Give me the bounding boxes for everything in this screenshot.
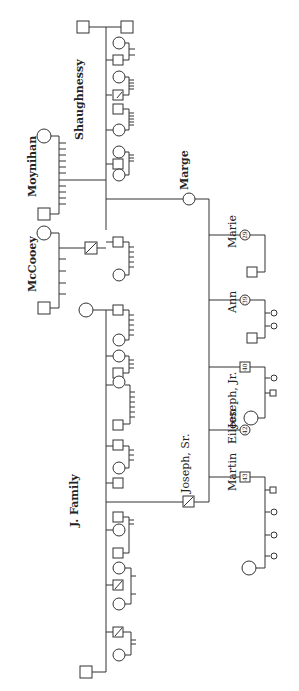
- marie-label: Marie: [226, 215, 239, 248]
- moynihan-label: Moynihan: [26, 136, 39, 197]
- children-generation: [209, 230, 277, 575]
- martin-label: Martin: [226, 453, 239, 491]
- marge-symbol: [183, 193, 195, 205]
- martin-age: 43: [241, 473, 248, 481]
- shaughnessy-grandfather-symbol: [77, 21, 89, 33]
- mccooey-family: [37, 226, 134, 314]
- genogram-canvas: Shaughnessy Moynihan McCooey Marge J. Fa…: [0, 0, 299, 691]
- joseph-jr-age: 40: [241, 363, 248, 371]
- mccooey-label: McCooey: [26, 236, 39, 292]
- ann-label: Ann: [226, 291, 239, 314]
- ann-age: 39: [241, 296, 248, 304]
- shaughnessy-label: Shaughnessy: [73, 59, 86, 140]
- marie-age: 29: [241, 231, 248, 239]
- moynihan-family: [37, 129, 106, 220]
- eileen-label: Eileen: [226, 409, 239, 444]
- shaughnessy-grandfather2-symbol: [121, 21, 133, 33]
- eileen-age: 42: [241, 426, 248, 434]
- joseph-sr-label: Joseph, Sr.: [179, 434, 192, 494]
- genogram-diagram: Shaughnessy Moynihan McCooey Marge J. Fa…: [0, 0, 299, 691]
- marge-label: Marge: [178, 150, 191, 190]
- j-family-label: J. Family: [68, 474, 81, 528]
